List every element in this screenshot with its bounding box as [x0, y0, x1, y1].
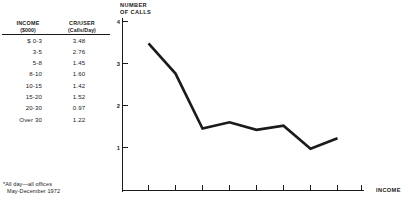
- cell-income: $ 0-3: [2, 35, 54, 46]
- table-row: 10-15 1.42: [2, 80, 110, 91]
- table-row: 8-10 1.60: [2, 69, 110, 80]
- income-cr-user-table-block: INCOME ($000) CR/USER (Calls/Day) $ 0-3 …: [2, 20, 110, 125]
- cell-cr-user: 1.22: [54, 114, 110, 125]
- y-axis-tick-labels: 4 3 2 1: [117, 19, 121, 151]
- y-axis-ticks: [123, 22, 129, 148]
- footnote-line-1: *All day—all offices: [3, 181, 60, 188]
- x-axis-label: INCOME: [376, 187, 401, 193]
- column-header-income-unit: ($000): [2, 27, 54, 34]
- column-header-income: INCOME ($000): [2, 20, 54, 34]
- cell-cr-user: 0.97: [54, 103, 110, 114]
- cell-cr-user: 1.60: [54, 69, 110, 80]
- table-row: $ 0-3 3.48: [2, 35, 110, 46]
- income-cr-user-table: INCOME ($000) CR/USER (Calls/Day) $ 0-3 …: [2, 20, 110, 125]
- column-header-cr-user-unit: (Calls/Day): [54, 27, 110, 34]
- y-tick-label-3: 3: [117, 61, 121, 67]
- chart-plot-area: 4 3 2 1 INCOME: [112, 0, 409, 203]
- cell-income: 10-15: [2, 80, 54, 91]
- cell-income: Over 30: [2, 114, 54, 125]
- cell-cr-user: 2.76: [54, 46, 110, 57]
- x-axis-ticks: [149, 185, 362, 191]
- y-tick-label-2: 2: [117, 103, 120, 109]
- cell-cr-user: 3.48: [54, 35, 110, 46]
- cell-income: 20-30: [2, 103, 54, 114]
- footnote: *All day—all offices May-December 1972: [3, 181, 60, 196]
- table-row: Over 30 1.22: [2, 114, 110, 125]
- column-header-cr-user-label: CR/USER: [69, 20, 95, 26]
- column-header-cr-user: CR/USER (Calls/Day): [54, 20, 110, 34]
- cell-income: 15-20: [2, 92, 54, 103]
- cell-cr-user: 1.52: [54, 92, 110, 103]
- table-header-row: INCOME ($000) CR/USER (Calls/Day): [2, 20, 110, 34]
- footnote-line-2: May-December 1972: [3, 188, 60, 195]
- cell-income: 3-5: [2, 46, 54, 57]
- line-chart: NUMBER OF CALLS 4 3 2 1: [112, 0, 409, 203]
- table-row: 20-30 0.97: [2, 103, 110, 114]
- y-tick-label-1: 1: [117, 145, 121, 151]
- cell-income: 5-8: [2, 58, 54, 69]
- table-row: 15-20 1.52: [2, 92, 110, 103]
- table-row: 5-8 1.45: [2, 58, 110, 69]
- table-row: 3-5 2.76: [2, 46, 110, 57]
- table-body: $ 0-3 3.48 3-5 2.76 5-8 1.45 8-10 1.60 1…: [2, 35, 110, 125]
- y-tick-label-4: 4: [117, 19, 121, 25]
- cell-cr-user: 1.42: [54, 80, 110, 91]
- column-header-income-label: INCOME: [16, 20, 39, 26]
- cell-cr-user: 1.45: [54, 58, 110, 69]
- data-series-line: [149, 43, 338, 148]
- cell-income: 8-10: [2, 69, 54, 80]
